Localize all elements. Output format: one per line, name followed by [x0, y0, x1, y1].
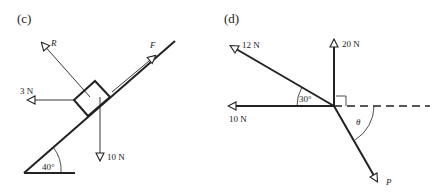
force-F-label: F: [149, 40, 156, 50]
force-F-arrow: [112, 56, 155, 92]
force-R-arrow: [42, 43, 90, 97]
force-12N-label: 12 N: [242, 40, 260, 50]
angle-label-40: 40°: [42, 162, 55, 172]
force-diagrams: (c) 40° R 3 N F 10 N (d) 12 N 20 N 10 N: [0, 0, 446, 195]
diagram-c-label: (c): [17, 11, 31, 26]
force-R-label: R: [50, 38, 57, 48]
force-20N-label: 20 N: [342, 39, 360, 49]
block: [74, 81, 110, 116]
diagram-d: (d) 12 N 20 N 10 N P 30° θ: [224, 11, 430, 187]
diagram-c: (c) 40° R 3 N F 10 N: [17, 11, 175, 173]
right-angle-marker: [336, 96, 346, 106]
force-12N-arrow: [231, 46, 334, 106]
force-10N-label-d: 10 N: [229, 114, 247, 124]
diagram-d-label: (d): [224, 11, 239, 26]
force-10N-label: 10 N: [107, 152, 125, 162]
angle-label-theta: θ: [356, 117, 361, 127]
force-3N-label: 3 N: [20, 86, 34, 96]
force-P-label: P: [385, 177, 392, 187]
angle-label-30: 30°: [299, 94, 312, 104]
